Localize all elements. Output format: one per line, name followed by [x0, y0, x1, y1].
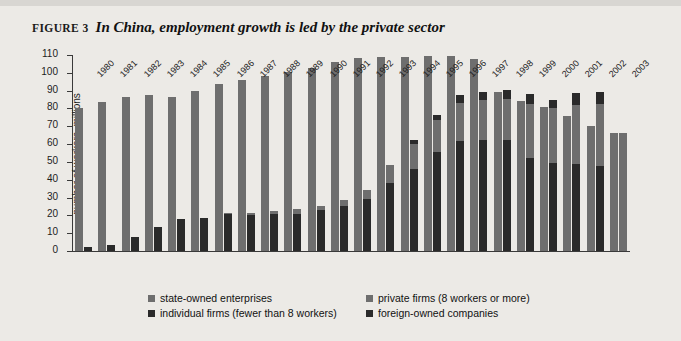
bar-group: [284, 72, 301, 251]
bar-segment: [470, 59, 478, 251]
legend-swatch-icon: [148, 295, 155, 302]
bar-state-owned: [122, 97, 130, 251]
bar-state-owned: [331, 62, 339, 251]
x-axis-tick-label: 1986: [234, 58, 255, 79]
bar-state-owned: [261, 76, 269, 252]
y-axis-tick-label: 10: [47, 226, 58, 237]
legend-item-state-owned-enterprises: state-owned enterprises: [148, 292, 366, 304]
bar-segment: [317, 210, 325, 251]
bar-private-sector: [549, 100, 557, 251]
legend-label: state-owned enterprises: [160, 292, 272, 304]
y-axis-tick: 20: [67, 215, 72, 216]
bar-group: [98, 102, 115, 251]
y-axis-tick: 90: [67, 91, 72, 92]
bar-segment: [377, 57, 385, 251]
bar-segment: [145, 95, 153, 251]
bar-segment: [354, 58, 362, 251]
x-axis-tick-label: 1980: [95, 58, 116, 79]
bar-group: [470, 59, 487, 251]
bar-segment: [549, 100, 557, 109]
bar-state-owned: [494, 92, 502, 251]
x-axis-tick-label: 2003: [630, 58, 651, 79]
bar-segment: [517, 101, 525, 251]
y-axis-tick-label: 50: [47, 155, 58, 166]
bar-segment: [503, 140, 511, 251]
bar-segment: [526, 158, 534, 251]
legend-swatch-icon: [366, 310, 373, 317]
bar-segment: [168, 97, 176, 251]
bar-private-sector: [200, 218, 208, 251]
bar-state-owned: [168, 97, 176, 251]
bar-segment: [596, 104, 604, 166]
y-axis-tick-label: 80: [47, 101, 58, 112]
bar-private-sector: [317, 206, 325, 251]
bar-group: [168, 97, 185, 251]
bar-group: [424, 56, 441, 251]
x-axis-tick-label: 1999: [537, 58, 558, 79]
x-axis-tick-label: 1998: [513, 58, 534, 79]
bar-segment: [479, 100, 487, 139]
bar-state-owned: [98, 102, 106, 251]
bar-state-owned: [354, 58, 362, 251]
bar-group: [308, 68, 325, 251]
x-axis-tick-label: 2001: [583, 58, 604, 79]
bar-state-owned: [284, 72, 292, 251]
bar-segment: [456, 95, 464, 103]
bar-segment: [308, 68, 316, 251]
figure-label: Figure 3: [32, 22, 89, 34]
chart-legend: state-owned enterprises private firms (8…: [148, 292, 568, 322]
legend-label: individual firms (fewer than 8 workers): [160, 307, 337, 319]
y-axis-tick-label: 70: [47, 119, 58, 130]
bar-segment: [572, 93, 580, 105]
bar-group: [517, 94, 534, 251]
bar-private-sector: [247, 213, 255, 251]
bar-state-owned: [75, 108, 83, 251]
bar-group: [75, 108, 92, 251]
legend-row: state-owned enterprises private firms (8…: [148, 292, 568, 304]
bar-segment: [200, 218, 208, 251]
bar-segment: [433, 120, 441, 152]
bar-private-sector: [479, 92, 487, 251]
bar-segment: [224, 214, 232, 251]
bar-group: [191, 91, 208, 251]
bar-state-owned: [587, 126, 595, 251]
bar-segment: [386, 183, 394, 251]
y-axis-tick: 60: [67, 144, 72, 145]
bar-private-sector: [619, 133, 627, 251]
bar-segment: [619, 133, 627, 251]
bar-group: [587, 92, 604, 251]
bar-segment: [122, 97, 130, 251]
bar-segment: [433, 152, 441, 251]
bar-state-owned: [377, 57, 385, 251]
bar-state-owned: [447, 56, 455, 251]
bar-segment: [587, 126, 595, 251]
bar-group: [447, 56, 464, 251]
bar-state-owned: [238, 80, 246, 251]
bar-group: [540, 100, 557, 251]
bar-segment: [479, 140, 487, 251]
bar-segment: [479, 92, 487, 100]
bar-segment: [261, 76, 269, 252]
bar-segment: [410, 169, 418, 251]
legend-item-foreign-owned-companies: foreign-owned companies: [366, 307, 566, 319]
bar-group: [331, 62, 348, 251]
figure-title: In China, employment growth is led by th…: [96, 19, 445, 35]
bar-state-owned: [401, 57, 409, 251]
chart-plot-area: number of workers, millions 010203040506…: [72, 55, 630, 252]
bar-state-owned: [610, 133, 618, 251]
y-axis-tick-label: 90: [47, 84, 58, 95]
y-axis-tick-label: 60: [47, 137, 58, 148]
bar-segment: [131, 237, 139, 251]
bar-private-sector: [131, 237, 139, 251]
bar-segment: [456, 141, 464, 251]
bar-group: [122, 97, 139, 251]
bar-private-sector: [596, 92, 604, 251]
bar-segment: [563, 116, 571, 251]
legend-item-private-firms: private firms (8 workers or more): [366, 292, 566, 304]
bar-segment: [447, 56, 455, 251]
bar-segment: [363, 199, 371, 251]
x-axis-tick-label: 1985: [211, 58, 232, 79]
bar-segment: [177, 219, 185, 251]
bar-segment: [247, 215, 255, 251]
y-axis-tick: 100: [67, 73, 72, 74]
